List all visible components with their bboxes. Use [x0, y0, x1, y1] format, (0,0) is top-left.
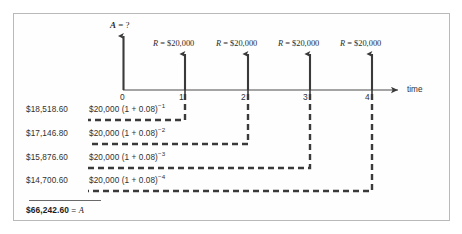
formula-base: $20,000 (1 + 0.08)	[89, 176, 158, 185]
tick-label-0: 0	[120, 92, 125, 102]
total-equals: =	[69, 205, 79, 215]
formula-exponent: −2	[158, 126, 165, 133]
axis-label-time: time	[407, 85, 422, 94]
tick-label-2: 2	[241, 92, 246, 102]
formula-base: $20,000 (1 + 0.08)	[89, 129, 158, 138]
discount-formula-row-2: $20,000 (1 + 0.08)−2	[89, 129, 165, 138]
total-present-value: $66,242.60 = A	[26, 205, 84, 215]
label-A-unknown: A = ?	[110, 20, 130, 30]
present-value-row-2: $17,146.80	[26, 129, 68, 138]
tick-label-4: 4	[365, 92, 370, 102]
present-value-row-1: $18,518.60	[26, 105, 68, 114]
formula-base: $20,000 (1 + 0.08)	[89, 153, 158, 162]
formula-exponent: −1	[158, 102, 165, 109]
receipt-amount: = $20,000	[221, 39, 257, 48]
discount-formula-row-3: $20,000 (1 + 0.08)−3	[89, 153, 165, 162]
label-receipt-period-4: R = $20,000	[340, 39, 381, 48]
total-amount: $66,242.60	[26, 205, 69, 215]
formula-base: $20,000 (1 + 0.08)	[89, 105, 158, 114]
formula-exponent: −4	[158, 173, 165, 180]
formula-exponent: −3	[158, 150, 165, 157]
discount-formula-row-4: $20,000 (1 + 0.08)−4	[89, 176, 165, 185]
receipt-amount: = $20,000	[158, 39, 194, 48]
receipt-amount: = $20,000	[283, 39, 319, 48]
tick-label-3: 3	[303, 92, 308, 102]
tick-label-1: 1	[179, 92, 184, 102]
diagram-svg	[0, 0, 462, 234]
receipt-amount: = $20,000	[345, 39, 381, 48]
label-receipt-period-3: R = $20,000	[278, 39, 319, 48]
present-value-row-3: $15,876.60	[26, 153, 68, 162]
label-receipt-period-1: R = $20,000	[153, 39, 194, 48]
label-receipt-period-2: R = $20,000	[216, 39, 257, 48]
label-A-equals: = ?	[116, 20, 130, 30]
present-value-row-4: $14,700.60	[26, 176, 68, 185]
figure-root: A = ? R = $20,000 R = $20,000 R = $20,00…	[0, 0, 462, 234]
discount-formula-row-1: $20,000 (1 + 0.08)−1	[89, 105, 165, 114]
total-variable: A	[79, 206, 84, 215]
